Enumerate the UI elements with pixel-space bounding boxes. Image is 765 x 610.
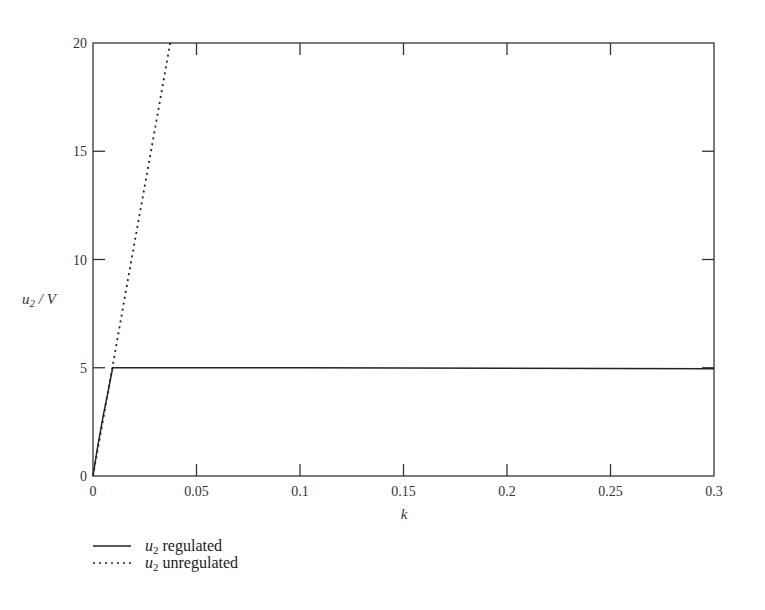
series-regulated bbox=[93, 368, 714, 476]
y-axis-label: u2 / V bbox=[22, 291, 58, 309]
plot-border bbox=[93, 43, 714, 476]
legend-item-unregulated: u2 unregulated bbox=[145, 554, 238, 573]
x-axis-label: k bbox=[401, 506, 408, 522]
x-tick-label: 0.3 bbox=[705, 484, 723, 499]
legend: u2 regulated u2 unregulated bbox=[93, 537, 238, 573]
chart-canvas: 00.050.10.150.20.250.3 05101520 u2 / V k… bbox=[0, 0, 765, 610]
x-tick-label: 0.05 bbox=[184, 484, 209, 499]
x-tick-label: 0.15 bbox=[391, 484, 416, 499]
y-tick-label: 20 bbox=[73, 36, 87, 51]
y-tick-label: 10 bbox=[73, 253, 87, 268]
y-tick-label: 15 bbox=[73, 144, 87, 159]
x-tick-labels: 00.050.10.150.20.250.3 bbox=[90, 484, 723, 499]
y-tick-label: 0 bbox=[80, 469, 87, 484]
plot-frame bbox=[93, 43, 714, 476]
y-tick-labels: 05101520 bbox=[73, 36, 87, 484]
x-tick-label: 0.2 bbox=[498, 484, 516, 499]
data-series bbox=[93, 43, 714, 476]
x-tick-label: 0 bbox=[90, 484, 97, 499]
x-tick-label: 0.1 bbox=[291, 484, 309, 499]
axis-ticks bbox=[93, 43, 714, 476]
y-tick-label: 5 bbox=[80, 361, 87, 376]
x-tick-label: 0.25 bbox=[598, 484, 623, 499]
